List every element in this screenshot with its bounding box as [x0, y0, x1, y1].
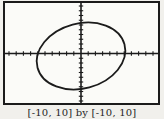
figure-page: [-10, 10] by [-10, 10]: [0, 0, 164, 119]
plot-svg: [5, 3, 158, 103]
viewing-window-caption: [-10, 10] by [-10, 10]: [0, 107, 164, 118]
calculator-screen-frame: [3, 1, 160, 105]
